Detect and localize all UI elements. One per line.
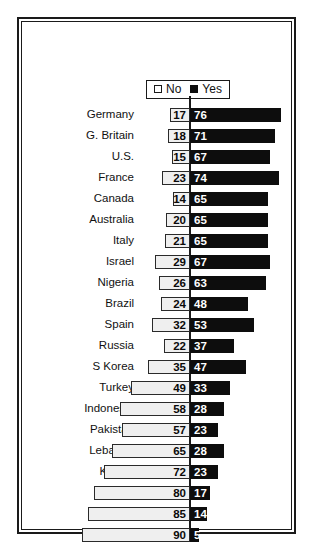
row-bar-zone: 2448 [22, 294, 291, 315]
bar-value-no: 26 [173, 277, 189, 289]
row-bar-zone: 1871 [22, 126, 291, 147]
bar-yes: 5 [190, 528, 199, 542]
bar-value-no: 35 [173, 361, 189, 373]
bar-yes: 23 [190, 423, 218, 437]
bar-no: 65 [112, 444, 190, 458]
bar-value-yes: 23 [191, 424, 207, 436]
bar-value-no: 20 [173, 214, 189, 226]
bar-value-no: 17 [173, 109, 189, 121]
chart-row: Australia2065 [22, 210, 291, 231]
bar-no: 35 [148, 360, 190, 374]
chart-rows: Germany1776G. Britain1871U.S.1567France2… [22, 105, 291, 546]
bar-value-yes: 74 [191, 172, 207, 184]
bar-no: 72 [104, 465, 190, 479]
row-bar-zone: 1465 [22, 189, 291, 210]
chart-row: S Korea3547 [22, 357, 291, 378]
filled-square-icon [190, 85, 198, 93]
chart-row: U.S.1567 [22, 147, 291, 168]
bar-value-yes: 67 [191, 256, 207, 268]
bar-no: 23 [162, 171, 190, 185]
bar-value-no: 85 [173, 508, 189, 520]
bar-value-no: 14 [173, 193, 189, 205]
bar-yes: 65 [190, 213, 268, 227]
row-bar-zone: 2065 [22, 210, 291, 231]
bar-yes: 65 [190, 234, 268, 248]
bar-value-no: 72 [173, 466, 189, 478]
row-bar-zone: 7223 [22, 462, 291, 483]
bar-value-no: 80 [173, 487, 189, 499]
bar-yes: 48 [190, 297, 248, 311]
bar-no: 20 [166, 213, 190, 227]
bar-yes: 37 [190, 339, 234, 353]
bar-value-no: 58 [173, 403, 189, 415]
bar-value-no: 57 [173, 424, 189, 436]
bar-value-yes: 17 [191, 487, 207, 499]
bar-yes: 47 [190, 360, 246, 374]
row-bar-zone: 8017 [22, 483, 291, 504]
bar-value-yes: 28 [191, 403, 207, 415]
row-bar-zone: 2967 [22, 252, 291, 273]
bar-no: 32 [152, 318, 190, 332]
bar-value-no: 21 [173, 235, 189, 247]
chart-row: Germany1776 [22, 105, 291, 126]
chart-row: Morocco905 [22, 525, 291, 546]
bar-no: 58 [120, 402, 190, 416]
chart-row: Italy2165 [22, 231, 291, 252]
bar-no: 49 [131, 381, 190, 395]
chart-inner-frame: No Yes Germany1776G. Britain1871U.S.1567… [21, 21, 292, 530]
chart-row: Palest.8017 [22, 483, 291, 504]
bar-value-yes: 37 [191, 340, 207, 352]
bar-no: 57 [122, 423, 190, 437]
bar-value-yes: 76 [191, 109, 207, 121]
bar-no: 80 [94, 486, 190, 500]
bar-no: 22 [164, 339, 190, 353]
legend-entry-yes: Yes [190, 83, 222, 95]
bar-no: 17 [170, 108, 190, 122]
bar-yes: 67 [190, 150, 270, 164]
chart-row: Pakistan5723 [22, 420, 291, 441]
bar-value-yes: 47 [191, 361, 207, 373]
bar-yes: 63 [190, 276, 266, 290]
bar-value-no: 18 [173, 130, 189, 142]
bar-no: 85 [88, 507, 190, 521]
bar-value-yes: 65 [191, 193, 207, 205]
legend-label-yes: Yes [202, 83, 222, 95]
row-bar-zone: 3547 [22, 357, 291, 378]
chart-outer-frame: No Yes Germany1776G. Britain1871U.S.1567… [17, 17, 296, 534]
bar-no: 90 [82, 528, 190, 542]
bar-value-yes: 14 [191, 508, 207, 520]
open-square-icon [154, 85, 162, 93]
bar-value-no: 29 [173, 256, 189, 268]
bar-yes: 33 [190, 381, 230, 395]
row-bar-zone: 905 [22, 525, 291, 546]
bar-no: 26 [159, 276, 190, 290]
chart-row: Brazil2448 [22, 294, 291, 315]
bar-yes: 28 [190, 402, 224, 416]
row-bar-zone: 8514 [22, 504, 291, 525]
bar-value-yes: 65 [191, 235, 207, 247]
chart-row: G. Britain1871 [22, 126, 291, 147]
row-bar-zone: 5723 [22, 420, 291, 441]
chart-row: Indonesia5828 [22, 399, 291, 420]
row-bar-zone: 3253 [22, 315, 291, 336]
chart-legend: No Yes [146, 80, 230, 99]
row-bar-zone: 5828 [22, 399, 291, 420]
chart-row: Kuwait7223 [22, 462, 291, 483]
bar-value-yes: 71 [191, 130, 207, 142]
legend-label-no: No [166, 83, 181, 95]
chart-row: France2374 [22, 168, 291, 189]
chart-row: Israel2967 [22, 252, 291, 273]
bar-value-yes: 28 [191, 445, 207, 457]
chart-row: Turkey4933 [22, 378, 291, 399]
bar-no: 24 [161, 297, 190, 311]
chart-row: Jordan8514 [22, 504, 291, 525]
row-bar-zone: 1776 [22, 105, 291, 126]
bar-value-no: 49 [173, 382, 189, 394]
bar-yes: 65 [190, 192, 268, 206]
bar-value-yes: 67 [191, 151, 207, 163]
bar-value-yes: 65 [191, 214, 207, 226]
bar-yes: 23 [190, 465, 218, 479]
bar-value-no: 90 [173, 529, 189, 541]
bar-no: 29 [155, 255, 190, 269]
row-bar-zone: 2237 [22, 336, 291, 357]
